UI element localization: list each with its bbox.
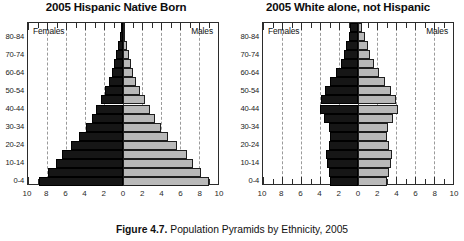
- plot-area-left: Females Males: [27, 22, 219, 185]
- bar-male: [123, 177, 209, 186]
- figure-population-pyramids: 2005 Hispanic Native Born 0-410-1420-243…: [0, 0, 464, 241]
- bar-male: [358, 159, 391, 168]
- bar-male: [123, 41, 127, 50]
- bar-female: [341, 59, 358, 68]
- bar-male: [123, 23, 125, 32]
- y-axis-label: 60-64: [6, 67, 24, 76]
- bar-male: [358, 86, 391, 95]
- bar-male: [358, 150, 392, 159]
- bar-female: [48, 168, 123, 177]
- bar-male: [123, 50, 129, 59]
- bar-male: [358, 77, 385, 86]
- bar-female: [116, 50, 123, 59]
- x-axis-label: 4: [317, 189, 321, 198]
- bar-female: [92, 114, 123, 123]
- bar-female: [320, 105, 358, 114]
- y-axis-label: 40-44: [241, 104, 259, 113]
- bar-female: [350, 23, 358, 32]
- bar-male: [123, 68, 133, 77]
- axis-tick: [218, 23, 219, 30]
- pyramid-row: [263, 77, 453, 86]
- bar-female: [329, 141, 358, 150]
- bar-male: [358, 41, 368, 50]
- y-axis-label: 50-54: [241, 85, 259, 94]
- bar-male: [358, 168, 389, 177]
- pyramid-row: [263, 114, 453, 123]
- bar-female: [39, 177, 123, 186]
- y-axis-label: 30-34: [6, 122, 24, 131]
- y-axis-label: 80-84: [241, 31, 259, 40]
- bar-female: [329, 168, 358, 177]
- bar-female: [344, 50, 358, 59]
- bar-male: [123, 95, 145, 104]
- axis-tick: [453, 177, 454, 184]
- bar-male: [123, 105, 150, 114]
- bar-male: [358, 50, 370, 59]
- y-axis-label: 30-34: [241, 122, 259, 131]
- bar-male: [123, 114, 155, 123]
- x-axis-label: 4: [159, 189, 163, 198]
- x-axis-label: 10: [450, 189, 459, 198]
- y-axis-label: 50-54: [6, 85, 24, 94]
- label-females-left: Females: [33, 26, 64, 36]
- x-axis-label: 2: [337, 189, 341, 198]
- x-axis-label: 4: [394, 189, 398, 198]
- pyramid-row: [263, 141, 453, 150]
- x-axis-label: 8: [44, 189, 48, 198]
- x-axis-label: 6: [413, 189, 417, 198]
- pyramid-row: [263, 177, 453, 186]
- x-axis-label: 8: [433, 189, 437, 198]
- x-axis-label: 2: [375, 189, 379, 198]
- bar-female: [101, 95, 123, 104]
- pyramid-row: [28, 114, 218, 123]
- bar-female: [56, 159, 123, 168]
- bar-male: [123, 150, 187, 159]
- x-axis-label: 2: [102, 189, 106, 198]
- x-axis-labels-right: 1086420246810: [262, 189, 454, 203]
- y-axis-label: 80-84: [6, 31, 24, 40]
- pyramid-row: [263, 59, 453, 68]
- pyramid-row: [28, 168, 218, 177]
- y-axis-label: 70-74: [6, 49, 24, 58]
- label-males-right: Males: [426, 26, 448, 36]
- bar-male: [123, 59, 131, 68]
- pyramid-row: [28, 123, 218, 132]
- bar-male: [123, 168, 201, 177]
- bar-female: [325, 86, 358, 95]
- bar-female: [326, 150, 358, 159]
- pyramid-row: [263, 105, 453, 114]
- bar-male: [123, 77, 136, 86]
- chart-panel-hispanic-native-born: 2005 Hispanic Native Born 0-410-1420-243…: [0, 0, 232, 205]
- x-axis-label: 0: [121, 189, 125, 198]
- bar-female: [330, 132, 358, 141]
- figure-caption-label: Figure 4.7.: [116, 224, 168, 235]
- bar-male: [123, 123, 161, 132]
- pyramid-row: [263, 68, 453, 77]
- y-axis-label: 10-14: [6, 158, 24, 167]
- bar-male: [358, 32, 365, 41]
- bar-female: [349, 32, 359, 41]
- bars-left: [28, 23, 218, 184]
- pyramid-row: [28, 150, 218, 159]
- bar-female: [329, 123, 358, 132]
- pyramid-row: [28, 59, 218, 68]
- bar-male: [358, 105, 398, 114]
- bar-female: [346, 41, 358, 50]
- bar-female: [114, 59, 123, 68]
- y-axis-label: 70-74: [241, 49, 259, 58]
- label-males-left: Males: [191, 26, 213, 36]
- bar-male: [358, 123, 388, 132]
- x-axis-labels-left: 1086420246810: [27, 189, 219, 203]
- pyramid-row: [28, 159, 218, 168]
- y-axis-label: 0-4: [249, 176, 259, 185]
- pyramid-row: [28, 105, 218, 114]
- bar-female: [96, 105, 123, 114]
- y-axis-label: 40-44: [6, 104, 24, 113]
- pyramid-row: [263, 95, 453, 104]
- bar-male: [123, 86, 140, 95]
- bar-female: [109, 77, 123, 86]
- bar-male: [123, 132, 168, 141]
- axis-tick: [218, 177, 219, 184]
- chart-panel-white-alone-not-hispanic: 2005 White alone, not Hispanic 0-410-142…: [232, 0, 464, 205]
- pyramid-row: [263, 168, 453, 177]
